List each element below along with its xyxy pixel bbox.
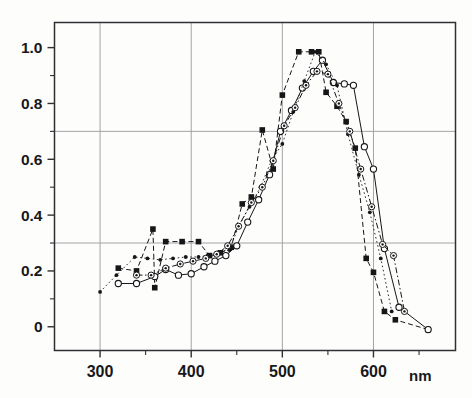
y-tick-label: 1.0 bbox=[21, 39, 43, 56]
data-point-marker bbox=[259, 127, 265, 133]
data-point-marker bbox=[201, 264, 207, 270]
data-point-marker bbox=[196, 239, 202, 245]
x-axis-unit-label: nm bbox=[409, 367, 432, 384]
data-point-marker-center bbox=[192, 260, 194, 262]
data-point-marker-center bbox=[338, 102, 340, 104]
x-tick-label: 300 bbox=[87, 363, 114, 380]
data-point-marker-center bbox=[392, 254, 394, 256]
series-filled-square-series bbox=[115, 49, 430, 332]
data-point-marker bbox=[256, 197, 262, 203]
data-point-marker-center bbox=[226, 245, 228, 247]
data-point-marker bbox=[361, 144, 367, 150]
data-point-marker bbox=[390, 310, 394, 314]
data-point-marker bbox=[171, 256, 175, 260]
data-point-marker bbox=[357, 173, 361, 177]
data-point-marker-center bbox=[370, 206, 372, 208]
y-tick-label: 0.4 bbox=[21, 207, 43, 224]
data-point-marker bbox=[343, 119, 349, 125]
data-point-marker-center bbox=[283, 125, 285, 127]
data-point-marker bbox=[371, 270, 377, 276]
data-point-marker bbox=[188, 271, 194, 277]
data-point-marker-center bbox=[135, 274, 137, 276]
data-point-marker-center bbox=[164, 267, 166, 269]
x-tick-label: 500 bbox=[269, 363, 296, 380]
data-point-marker bbox=[363, 256, 369, 262]
spectrum-chart-svg: 00.20.40.60.81.0300400500600nm bbox=[0, 0, 472, 398]
series-line bbox=[118, 60, 428, 329]
data-point-marker bbox=[370, 166, 376, 172]
series-line bbox=[118, 52, 428, 330]
plot-frame bbox=[55, 23, 456, 351]
data-point-marker bbox=[212, 258, 218, 264]
x-tick-label: 600 bbox=[360, 363, 387, 380]
data-point-marker bbox=[382, 309, 388, 315]
data-point-marker-center bbox=[179, 263, 181, 265]
data-point-marker bbox=[133, 280, 139, 286]
data-point-marker bbox=[158, 258, 162, 262]
y-tick-label: 0 bbox=[34, 318, 43, 335]
series-open-circle-series bbox=[115, 57, 431, 333]
data-point-marker bbox=[163, 239, 169, 245]
data-point-marker bbox=[296, 49, 302, 55]
data-point-marker bbox=[234, 243, 240, 249]
data-point-marker bbox=[146, 256, 150, 260]
data-point-marker bbox=[324, 62, 328, 66]
series-line bbox=[100, 52, 392, 312]
data-point-marker bbox=[115, 280, 121, 286]
data-point-marker bbox=[396, 304, 402, 310]
action-spectrum-figure: 00.20.40.60.81.0300400500600nm bbox=[0, 0, 472, 398]
data-point-marker bbox=[223, 252, 229, 258]
data-point-marker bbox=[152, 285, 158, 291]
data-point-marker bbox=[197, 255, 201, 259]
data-point-marker-center bbox=[360, 168, 362, 170]
data-point-marker bbox=[335, 83, 339, 87]
data-point-marker-center bbox=[316, 70, 318, 72]
data-point-marker bbox=[341, 81, 347, 87]
data-point-marker-center bbox=[261, 186, 263, 188]
series-small-dot-series bbox=[98, 50, 393, 313]
data-point-marker bbox=[280, 92, 286, 98]
data-point-marker-center bbox=[205, 257, 207, 259]
data-point-marker bbox=[425, 326, 431, 332]
data-point-marker bbox=[249, 194, 255, 200]
y-tick-label: 0.8 bbox=[21, 95, 43, 112]
y-tick-label: 0.6 bbox=[21, 151, 43, 168]
data-point-marker bbox=[239, 201, 245, 207]
data-point-marker-center bbox=[272, 159, 274, 161]
data-point-marker bbox=[393, 317, 399, 323]
data-point-marker bbox=[184, 255, 188, 259]
data-point-marker bbox=[133, 255, 137, 259]
data-point-marker bbox=[115, 273, 119, 277]
data-point-marker bbox=[368, 210, 372, 214]
data-point-marker bbox=[150, 226, 156, 232]
axis-ticks bbox=[48, 48, 420, 358]
data-point-marker bbox=[245, 219, 251, 225]
data-point-marker-center bbox=[381, 243, 383, 245]
series-dotted-circle-series bbox=[133, 68, 407, 314]
data-point-marker-center bbox=[216, 253, 218, 255]
gridlines bbox=[55, 23, 456, 351]
data-point-marker-center bbox=[403, 310, 405, 312]
data-point-marker-center bbox=[150, 274, 152, 276]
y-tick-label: 0.2 bbox=[21, 262, 43, 279]
x-tick-label: 400 bbox=[178, 363, 205, 380]
data-point-marker-center bbox=[250, 201, 252, 203]
data-point-marker bbox=[175, 272, 181, 278]
data-point-marker-center bbox=[327, 73, 329, 75]
data-point-marker-center bbox=[305, 84, 307, 86]
data-point-marker bbox=[313, 50, 317, 54]
data-point-marker-center bbox=[349, 130, 351, 132]
data-point-marker bbox=[379, 256, 383, 260]
data-point-marker-center bbox=[294, 106, 296, 108]
data-point-marker-center bbox=[237, 225, 239, 227]
data-point-marker bbox=[98, 290, 102, 294]
data-point-marker bbox=[179, 239, 185, 245]
data-point-marker bbox=[115, 265, 121, 271]
data-point-marker bbox=[280, 142, 284, 146]
data-point-marker bbox=[350, 82, 356, 88]
data-point-marker bbox=[352, 145, 358, 151]
data-point-marker bbox=[323, 89, 329, 95]
